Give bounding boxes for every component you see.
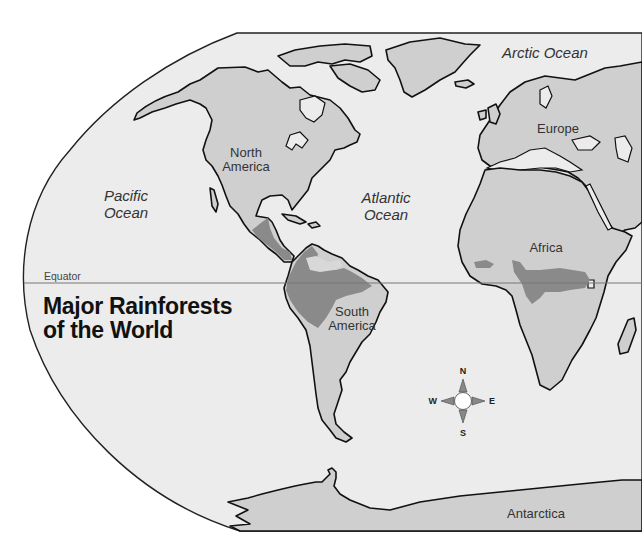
map-title-line-2: of the World (43, 318, 232, 342)
compass-center (455, 393, 472, 410)
europe-label: Europe (537, 121, 579, 136)
north-america-label-2: America (222, 159, 270, 174)
equator-label: Equator (44, 270, 81, 282)
pacific-ocean-label: Pacific (104, 187, 149, 204)
south-america-label: South (335, 304, 369, 319)
world-map: Pacific Ocean Atlantic Ocean Arctic Ocea… (0, 0, 642, 547)
compass-s-label: S (460, 428, 466, 438)
south-america-label-2: America (328, 318, 376, 333)
map-title: Major Rainforests of the World (43, 294, 232, 342)
pacific-ocean-label-2: Ocean (104, 204, 148, 221)
compass-e-label: E (489, 396, 495, 406)
atlantic-ocean-label: Atlantic (360, 189, 411, 206)
atlantic-ocean-label-2: Ocean (364, 206, 408, 223)
arctic-ocean-label: Arctic Ocean (501, 44, 588, 61)
north-america-label: North (230, 145, 262, 160)
compass-n-label: N (460, 366, 467, 376)
antarctica-label: Antarctica (507, 506, 566, 521)
map-title-line-1: Major Rainforests (43, 294, 232, 318)
compass-w-label: W (429, 396, 438, 406)
africa-label: Africa (529, 240, 563, 255)
ireland (478, 110, 486, 120)
